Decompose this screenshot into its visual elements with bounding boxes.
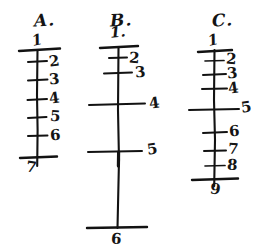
diagram-panel-c: C. 1 2 3 4 5 6 7 xyxy=(180,0,266,252)
panel-b-number-4: 4 xyxy=(148,95,160,111)
panel-b-number-1: 1. xyxy=(109,24,126,40)
panel-b-number-3: 3 xyxy=(134,65,146,81)
panel-a-number-5: 5 xyxy=(49,109,60,125)
diagram-panel-b: B. 1. 2 3 4 5 6 xyxy=(92,0,180,252)
panel-c-ink xyxy=(180,0,266,252)
panel-c-number-5: 5 xyxy=(240,99,252,115)
panel-a-number-7: 7 xyxy=(25,159,37,175)
panel-a-number-6: 6 xyxy=(49,128,61,144)
panel-b-number-5: 5 xyxy=(146,141,158,157)
panel-c-number-6: 6 xyxy=(228,124,240,140)
panel-c-number-9: 9 xyxy=(209,181,221,197)
panel-c-number-4: 4 xyxy=(227,80,239,96)
panel-c-number-8: 8 xyxy=(226,158,237,174)
panel-b-number-6: 6 xyxy=(110,232,121,248)
panel-a-number-3: 3 xyxy=(48,72,60,88)
panel-b-ink xyxy=(92,0,180,252)
panel-a-number-4: 4 xyxy=(48,90,60,106)
panel-a-number-2: 2 xyxy=(48,53,60,69)
drawing-sheet: A. 1 2 3 4 5 6 7 B. xyxy=(0,0,266,252)
diagram-panel-a: A. 1 2 3 4 5 6 7 xyxy=(0,0,92,252)
panel-a-ink xyxy=(0,0,92,252)
